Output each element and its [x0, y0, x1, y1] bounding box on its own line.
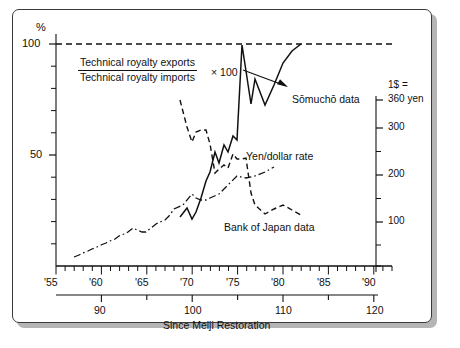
series-bank-of-japan: [74, 167, 274, 257]
x-axis-tick-1965: '65: [135, 277, 149, 288]
ratio-multiplier-label: × 100: [211, 67, 238, 78]
figure-root: % 100 50 1$ = 360 yen 300 200 100 '55 '6…: [0, 0, 460, 348]
bank-of-japan-series-label: Bank of Japan data: [224, 222, 315, 233]
right-axis-header: 1$ =: [388, 80, 408, 90]
meiji-axis-tick-100: 100: [184, 305, 202, 316]
meiji-axis-ticks: [101, 295, 373, 302]
left-axis-major-ticks: [49, 44, 56, 155]
right-axis-minor-ticks: [376, 152, 381, 267]
right-axis-tick-360: 360 yen: [388, 94, 424, 104]
meiji-axis-tick-90: 90: [94, 305, 106, 316]
x-axis-tick-1975: '75: [226, 277, 240, 288]
x-axis-tick-1960: '60: [89, 277, 103, 288]
right-axis-tick-200: 200: [388, 169, 405, 179]
right-axis-major-ticks: [376, 100, 383, 222]
left-axis-tick-100: 100: [22, 38, 40, 49]
bottom-axis-year-ticks: [56, 266, 392, 275]
x-axis-tick-1955: '55: [44, 277, 58, 288]
chart-plot-area: % 100 50 1$ = 360 yen 300 200 100 '55 '6…: [0, 0, 460, 348]
ratio-numerator-label: Technical royalty exports: [78, 57, 197, 71]
meiji-axis-tick-110: 110: [275, 305, 292, 316]
x-axis-tick-1985: '85: [317, 277, 331, 288]
right-axis-tick-300: 300: [388, 122, 405, 132]
ratio-annotation: Technical royalty exports Technical roya…: [78, 57, 197, 84]
x-axis-title: Since Meiji Restoration: [163, 320, 270, 331]
yen-dollar-series-label: Yen/dollar rate: [246, 151, 313, 162]
right-axis-tick-100: 100: [388, 216, 405, 226]
ratio-denominator-label: Technical royalty imports: [78, 71, 197, 84]
meiji-axis-tick-120: 120: [366, 305, 384, 316]
left-axis-tick-50: 50: [30, 149, 42, 160]
x-axis-tick-1970: '70: [180, 277, 194, 288]
ratio-annotation-arrow: [243, 70, 288, 87]
x-axis-tick-1980: '80: [271, 277, 285, 288]
somucho-series-label: Sōmuchō data: [292, 94, 360, 105]
x-axis-tick-1990: '90: [362, 277, 376, 288]
left-axis-unit-label: %: [36, 22, 46, 33]
